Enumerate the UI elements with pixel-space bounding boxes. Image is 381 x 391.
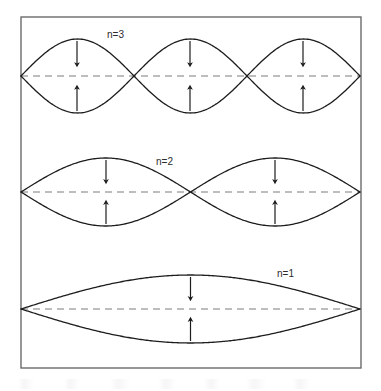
standing-wave-figure: n=3n=2n=1	[0, 0, 381, 391]
mode-label-n2: n=2	[156, 156, 173, 167]
mode-label-n1: n=1	[277, 268, 294, 279]
mode-label-n3: n=3	[107, 29, 124, 40]
standing-wave-diagram: n=3n=2n=1	[0, 0, 381, 391]
